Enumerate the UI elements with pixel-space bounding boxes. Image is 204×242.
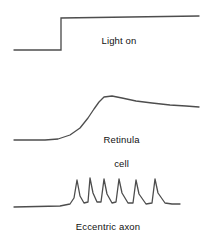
physiology-trace-figure: Light on Retinula cell Eccentric axon	[0, 0, 204, 242]
eccentric-axon-label: Eccentric axon	[0, 221, 204, 233]
retinula-cell-label-line1: Retinula	[104, 134, 140, 145]
retinula-cell-label: Retinula cell	[0, 122, 204, 182]
light-on-label: Light on	[0, 35, 204, 47]
retinula-cell-label-line2: cell	[114, 158, 129, 169]
